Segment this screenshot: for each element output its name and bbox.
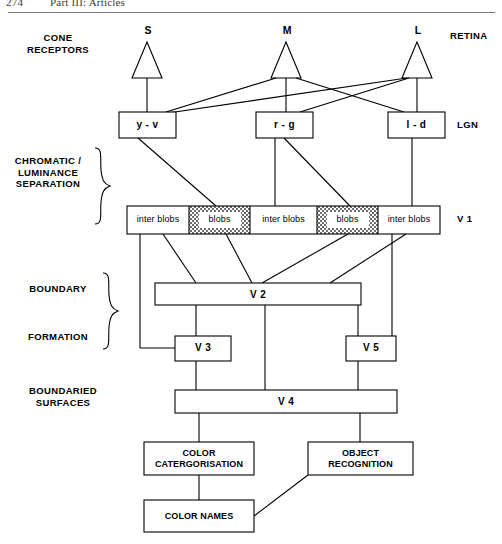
label-boundary: BOUNDARY (18, 283, 98, 295)
label-chromatic-luminance-separation: CHROMATIC / LUMINANCE SEPARATION (2, 155, 94, 190)
box-label-color-names: COLOR NAMES (144, 511, 254, 522)
lgn-to-v1-links (138, 138, 412, 206)
link-v1a-to-v2 (163, 234, 196, 283)
v1-label-inter-blobs-2: inter blobs (250, 214, 317, 225)
v1-label-inter-blobs-3: inter blobs (378, 214, 440, 225)
cone-label-s: S (139, 24, 157, 36)
v4-downstream-links (199, 413, 360, 442)
v1-label-inter-blobs-1: inter blobs (127, 214, 189, 225)
retina-to-lgn-links (166, 78, 409, 113)
link-v1b-to-v2 (226, 234, 252, 283)
box-label-v5: V 5 (346, 342, 396, 353)
link-l-to-rg (300, 78, 409, 112)
label-formation: FORMATION (18, 331, 98, 343)
label-v1: V 1 (457, 213, 497, 225)
box-label-v4: V 4 (175, 396, 397, 407)
cone-label-m: M (278, 24, 296, 36)
link-v1c-to-v2 (262, 234, 348, 283)
link-m-to-yv (166, 78, 276, 112)
link-yv-to-blobs1 (138, 138, 216, 206)
link-rg-to-blobs2 (284, 138, 350, 206)
cone-label-l: L (409, 24, 427, 36)
v1-label-blobs-2: blobs (317, 214, 378, 225)
lgn-label-ld: l - d (388, 119, 445, 130)
lgn-label-yv: y - v (119, 119, 176, 130)
lgn-label-rg: r - g (256, 119, 313, 130)
label-boundaried-surfaces: BOUNDARIED SURFACES (14, 385, 112, 408)
brace-chromatic-luminance (95, 148, 110, 224)
box-label-object-recognition: OBJECT RECOGNITION (308, 448, 413, 470)
label-lgn: LGN (457, 119, 497, 131)
label-retina: RETINA (450, 30, 502, 42)
v1-label-blobs-1: blobs (189, 214, 250, 225)
link-colornames-to-objectrec (254, 475, 308, 516)
link-m-to-ld (296, 78, 404, 112)
v1-to-v2-links (163, 234, 406, 283)
label-cone-receptors: CONE RECEPTORS (10, 32, 106, 55)
link-v1d-to-v2 (330, 234, 406, 283)
brace-boundary-formation (103, 273, 118, 349)
link-l-to-yv (168, 78, 407, 113)
v3-v5-to-v4-links (196, 361, 358, 390)
box-label-v3: V 3 (175, 342, 231, 353)
diagram-page: 274 Part III: Articles (0, 0, 502, 544)
box-label-v2: V 2 (155, 289, 361, 300)
box-label-color-categorisation: COLOR CATERGORISATION (141, 448, 257, 470)
